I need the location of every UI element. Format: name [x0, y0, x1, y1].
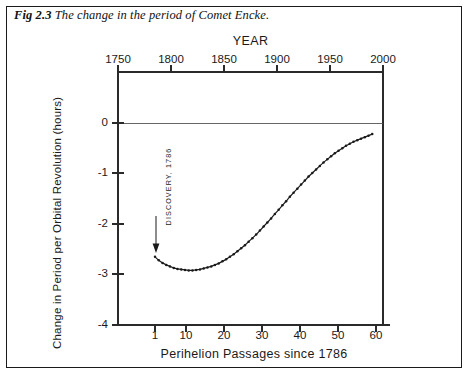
data-point — [307, 175, 310, 178]
data-point — [251, 237, 254, 240]
data-point — [225, 258, 228, 261]
data-point — [176, 268, 179, 271]
data-point — [255, 233, 258, 236]
data-point — [240, 247, 243, 250]
data-point — [277, 209, 280, 212]
data-point — [165, 264, 168, 267]
data-point — [172, 267, 175, 270]
data-point — [364, 136, 367, 139]
data-point — [330, 155, 333, 158]
data-point — [311, 172, 314, 175]
data-point — [285, 200, 288, 203]
data-point — [180, 268, 183, 271]
data-point-markers — [154, 133, 374, 272]
data-point — [326, 158, 329, 161]
data-point — [352, 140, 355, 143]
data-point — [315, 168, 318, 171]
data-point — [206, 266, 209, 269]
data-point — [158, 259, 161, 262]
data-point — [214, 264, 217, 267]
data-point — [236, 250, 239, 253]
data-point — [349, 142, 352, 145]
discovery-arrow — [153, 216, 160, 253]
data-point — [334, 152, 337, 155]
data-point — [367, 134, 370, 137]
chart-svg — [0, 0, 470, 376]
data-point — [292, 191, 295, 194]
data-series-line — [155, 134, 372, 270]
data-point — [300, 183, 303, 186]
data-point — [319, 165, 322, 168]
data-point — [232, 253, 235, 256]
data-point — [360, 137, 363, 140]
data-point — [154, 256, 157, 259]
data-point — [221, 260, 224, 263]
data-point — [259, 229, 262, 232]
data-point — [345, 144, 348, 147]
data-point — [262, 225, 265, 228]
data-point — [322, 161, 325, 164]
data-point — [289, 195, 292, 198]
data-point — [296, 187, 299, 190]
data-point — [270, 217, 273, 220]
data-point — [274, 213, 277, 216]
data-point — [371, 133, 374, 136]
data-point — [229, 256, 232, 259]
data-point — [187, 269, 190, 272]
data-point — [199, 268, 202, 271]
data-point — [202, 267, 205, 270]
data-point — [281, 204, 284, 207]
data-point — [169, 265, 172, 268]
data-point — [195, 269, 198, 272]
data-point — [244, 244, 247, 247]
data-point — [161, 262, 164, 265]
data-point — [210, 265, 213, 268]
data-point — [337, 150, 340, 153]
data-point — [217, 262, 220, 265]
data-point — [266, 221, 269, 224]
data-point — [341, 147, 344, 150]
data-point — [184, 269, 187, 272]
data-point — [356, 139, 359, 142]
data-point — [247, 240, 250, 243]
chart-plot-area: YEAR Perihelion Passages since 1786 Chan… — [0, 0, 470, 376]
data-point — [191, 269, 194, 272]
data-point — [304, 179, 307, 182]
